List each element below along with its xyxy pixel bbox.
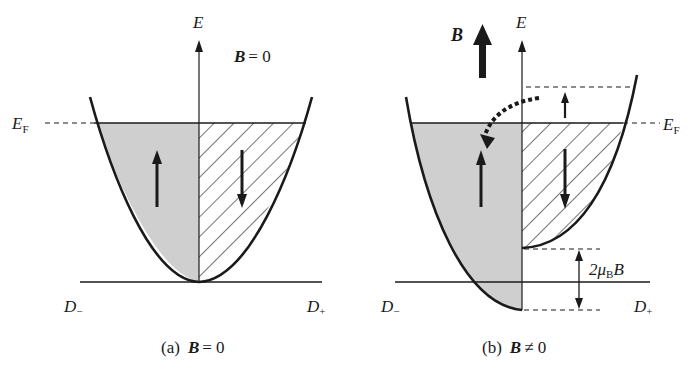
dos-minus-label: D− <box>380 297 400 317</box>
caption-b: (b)B≠ 0 <box>482 338 546 357</box>
dos-plus-label: D+ <box>306 297 326 317</box>
zeeman-splitting-label: 2μBB <box>589 260 624 280</box>
dos-diagram: E B= 0 EF D− D+ (a)B= 0 <box>0 0 697 380</box>
energy-axis-arrowhead-icon <box>518 40 526 52</box>
dos-minus-label: D− <box>63 297 83 317</box>
magnetic-field-label: B <box>450 25 463 45</box>
level-shift-arrow-icon <box>561 92 569 103</box>
splitting-arrow-bottom-icon <box>575 298 583 309</box>
panel-b: E B EF 2μBB D− D+ (b)B≠ 0 <box>380 13 680 357</box>
fermi-level-label: EF <box>11 114 29 135</box>
energy-axis-label: E <box>515 13 527 32</box>
panel-a: E B= 0 EF D− D+ (a)B= 0 <box>11 13 326 357</box>
caption-a: (a)B= 0 <box>161 338 225 357</box>
spin-up-occupied-region <box>96 123 199 282</box>
energy-axis-arrowhead-icon <box>195 40 203 52</box>
field-condition-label: B= 0 <box>233 47 271 66</box>
magnetic-field-arrow-icon <box>473 24 492 45</box>
spin-down-occupied-region <box>199 123 306 282</box>
fermi-level-label: EF <box>662 115 680 136</box>
dos-plus-label: D+ <box>633 297 653 317</box>
spin-down-occupied-region <box>522 123 623 248</box>
energy-axis-label: E <box>192 13 204 32</box>
splitting-arrow-top-icon <box>575 250 583 261</box>
